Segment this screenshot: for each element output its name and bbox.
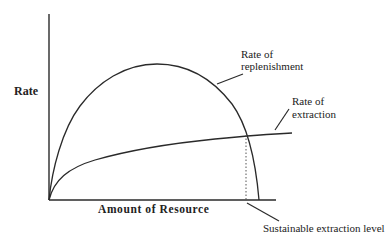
- replenishment-leader-line: [217, 74, 243, 84]
- extraction-label-line1: Rate of: [292, 95, 324, 107]
- extraction-leader-line: [275, 109, 289, 130]
- y-axis-label: Rate: [14, 84, 39, 98]
- sustainable-leader-line: [247, 203, 279, 221]
- replenishment-label-line1: Rate of: [241, 48, 273, 60]
- sustainable-extraction-label: Sustainable extraction level: [263, 222, 385, 234]
- x-axis-label: Amount of Resource: [98, 203, 210, 215]
- replenishment-curve: [49, 64, 259, 200]
- extraction-label-line2: extraction: [292, 108, 336, 120]
- extraction-curve: [49, 133, 292, 200]
- replenishment-label-line2: replenishment: [241, 60, 303, 72]
- resource-diagram: Rate Amount of Resource Rate of replenis…: [0, 0, 392, 238]
